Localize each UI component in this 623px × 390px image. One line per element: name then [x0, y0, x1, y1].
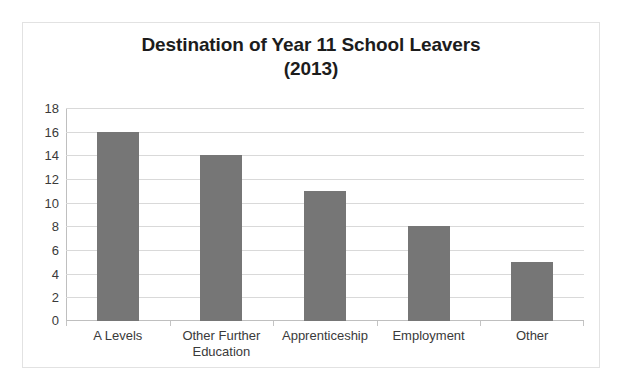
y-tick-label-16: 16 — [45, 124, 59, 139]
x-tick-5 — [583, 321, 584, 326]
x-label-line: Employment — [379, 328, 479, 344]
y-tick-label-2: 2 — [52, 290, 59, 305]
bar-slot-apprenticeship — [273, 108, 377, 321]
bar-other[interactable] — [511, 262, 553, 321]
y-tick-label-6: 6 — [52, 243, 59, 258]
x-label-line: Other Further — [172, 328, 272, 344]
x-label-line: Other — [482, 328, 582, 344]
bars-layer — [66, 108, 584, 321]
x-label-other-further-education: Other Further Education — [170, 328, 274, 360]
x-label-line: Education — [172, 344, 272, 360]
y-tick-label-12: 12 — [45, 172, 59, 187]
x-tick-0 — [66, 321, 67, 326]
chart-title-line-1: Destination of Year 11 School Leavers — [23, 33, 599, 57]
chart-title: Destination of Year 11 School Leavers (2… — [23, 33, 599, 81]
y-tick-label-18: 18 — [45, 101, 59, 116]
chart-container: Destination of Year 11 School Leavers (2… — [22, 22, 600, 368]
x-tick-4 — [480, 321, 481, 326]
x-axis-labels: A Levels Other Further Education Apprent… — [66, 328, 584, 360]
chart-title-line-2: (2013) — [23, 57, 599, 81]
x-tick-2 — [273, 321, 274, 326]
bar-slot-other — [480, 108, 584, 321]
bar-apprenticeship[interactable] — [304, 191, 346, 321]
y-tick-label-10: 10 — [45, 195, 59, 210]
y-tick-label-14: 14 — [45, 148, 59, 163]
y-tick-label-8: 8 — [52, 219, 59, 234]
bar-slot-employment — [377, 108, 481, 321]
x-label-line: Apprenticeship — [275, 328, 375, 344]
plot-area: 18 16 14 12 10 8 6 4 2 0 — [66, 108, 584, 321]
bar-slot-a-levels — [66, 108, 170, 321]
x-label-line: A Levels — [68, 328, 168, 344]
x-label-a-levels: A Levels — [66, 328, 170, 360]
x-tick-1 — [170, 321, 171, 326]
y-tick-label-0: 0 — [52, 313, 59, 328]
x-label-employment: Employment — [377, 328, 481, 360]
bar-slot-other-further-education — [170, 108, 274, 321]
bar-a-levels[interactable] — [97, 132, 139, 321]
y-tick-label-4: 4 — [52, 266, 59, 281]
x-tick-3 — [377, 321, 378, 326]
x-label-other: Other — [480, 328, 584, 360]
bar-employment[interactable] — [408, 226, 450, 321]
bar-other-further-education[interactable] — [200, 155, 242, 321]
x-label-apprenticeship: Apprenticeship — [273, 328, 377, 360]
